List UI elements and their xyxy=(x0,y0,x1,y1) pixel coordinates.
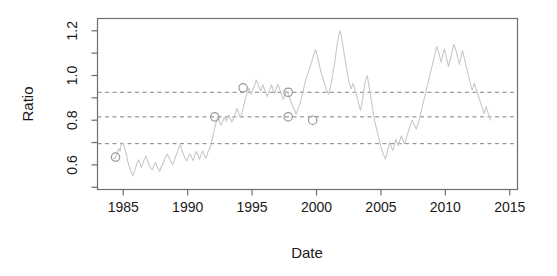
x-tick-label-2010: 2010 xyxy=(430,199,461,215)
x-tick-label-1985: 1985 xyxy=(108,199,139,215)
chart-background xyxy=(0,0,557,276)
x-tick-label-2015: 2015 xyxy=(494,199,525,215)
y-tick-label-1.2: 1.2 xyxy=(64,21,80,41)
x-tick-label-1995: 1995 xyxy=(237,199,268,215)
x-tick-label-2005: 2005 xyxy=(365,199,396,215)
x-axis-title: Date xyxy=(291,244,323,261)
y-tick-label-0.8: 0.8 xyxy=(64,110,80,130)
ratio-time-series-chart: 0.60.81.01.2 198519901995200020052010201… xyxy=(0,0,557,276)
x-tick-label-2000: 2000 xyxy=(301,199,332,215)
y-tick-label-1.0: 1.0 xyxy=(64,66,80,86)
chart-container: 0.60.81.01.2 198519901995200020052010201… xyxy=(0,0,557,276)
x-tick-label-1990: 1990 xyxy=(172,199,203,215)
y-tick-label-0.6: 0.6 xyxy=(64,155,80,175)
y-axis-title: Ratio xyxy=(19,86,36,121)
